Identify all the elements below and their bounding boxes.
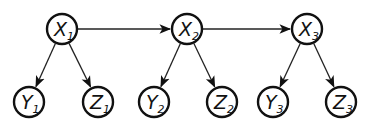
node-y3: Y3 xyxy=(258,87,288,117)
node-z1: Z1 xyxy=(83,87,113,117)
node-x1: X1 xyxy=(47,14,77,44)
node-z3: Z3 xyxy=(326,87,356,117)
edge-x2-to-z2 xyxy=(194,43,215,86)
edge-x1-to-y1 xyxy=(36,44,55,87)
graphical-model-diagram: X1X2X3Y1Z1Y2Z2Y3Z3 xyxy=(0,0,370,127)
edge-x2-to-y2 xyxy=(161,44,180,87)
edge-x3-to-y3 xyxy=(280,44,300,87)
node-y2: Y2 xyxy=(139,87,169,117)
node-x2: X2 xyxy=(172,14,202,44)
edge-x1-to-z1 xyxy=(69,43,90,86)
node-z2: Z2 xyxy=(207,87,237,117)
nodes: X1X2X3Y1Z1Y2Z2Y3Z3 xyxy=(14,14,356,117)
node-x3: X3 xyxy=(292,14,322,44)
node-y1: Y1 xyxy=(14,87,44,117)
edge-x3-to-z3 xyxy=(314,44,334,87)
